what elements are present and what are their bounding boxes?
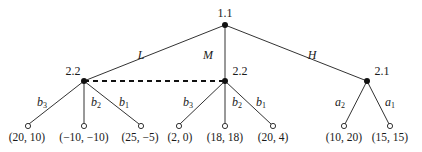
payoff-1: (20, 10)	[9, 131, 46, 144]
payoff-2: (−10, −10)	[59, 131, 109, 144]
branch-label-middle-b3: b3	[183, 95, 193, 110]
branch-label-left-b3: b3	[37, 95, 47, 110]
node-label-root: 1.1	[218, 6, 233, 20]
node-middle	[222, 78, 228, 84]
branch-label-middle-b1: b1	[256, 95, 266, 110]
node-left	[81, 78, 87, 84]
edge-label-L: L	[137, 48, 145, 62]
game-tree-diagram: 1.1 2.2 2.2 2.1 L M H b3 b2 b1 b3 b2 b1 …	[0, 0, 422, 152]
leaf-1	[25, 123, 30, 128]
branch-label-right-a2: a2	[335, 95, 345, 110]
leaf-4	[176, 123, 181, 128]
tree-edges	[29, 25, 389, 124]
node-label-middle: 2.2	[233, 64, 248, 78]
leaf-6	[270, 123, 275, 128]
terminal-nodes	[25, 123, 392, 128]
payoff-4: (2, 0)	[168, 131, 193, 144]
edge-label-M: M	[202, 48, 214, 62]
payoff-6: (20, 4)	[258, 131, 289, 144]
leaf-5	[222, 123, 227, 128]
node-label-right: 2.1	[375, 64, 390, 78]
node-right	[364, 78, 370, 84]
edge-right-a2	[345, 81, 367, 124]
node-root	[222, 22, 228, 28]
leaf-2	[81, 123, 86, 128]
leaf-8	[387, 123, 392, 128]
payoff-5: (18, 18)	[207, 131, 244, 144]
branch-label-left-b2: b2	[91, 95, 101, 110]
payoff-8: (15, 15)	[372, 131, 409, 144]
branch-label-right-a1: a1	[385, 95, 395, 110]
game-tree-svg: 1.1 2.2 2.2 2.1 L M H b3 b2 b1 b3 b2 b1 …	[0, 0, 422, 152]
edge-label-H: H	[307, 48, 318, 62]
payoff-3: (25, −5)	[121, 131, 158, 144]
node-label-left: 2.2	[66, 64, 81, 78]
leaf-3	[138, 123, 143, 128]
payoff-7: (10, 20)	[326, 131, 363, 144]
branch-label-middle-b2: b2	[232, 95, 242, 110]
leaf-7	[341, 123, 346, 128]
branch-label-left-b1: b1	[119, 95, 129, 110]
